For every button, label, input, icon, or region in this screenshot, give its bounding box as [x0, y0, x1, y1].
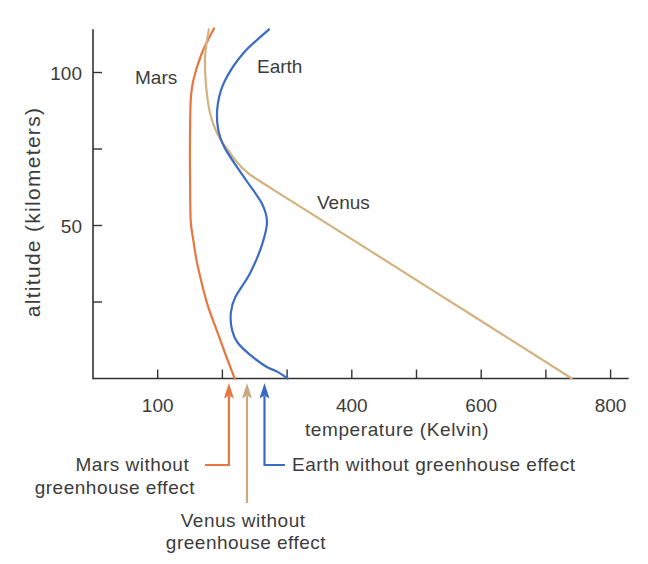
- series-line-venus: [205, 29, 572, 378]
- callout-mars: [205, 383, 234, 465]
- annotation-venus-no-greenhouse: Venus without greenhouse effect: [166, 510, 326, 553]
- altitude-vs-temperature-chart: 100400600800 50100 altitude (kilometers)…: [0, 0, 648, 564]
- series-label-earth: Earth: [257, 56, 302, 77]
- x-axis-label: temperature (Kelvin): [305, 419, 489, 440]
- callout-earth: [260, 383, 286, 465]
- annotation-line: Venus without: [181, 510, 306, 531]
- series-lines: [190, 28, 572, 378]
- annotation-line: Mars without: [76, 454, 190, 475]
- callouts: [205, 383, 285, 503]
- atmosphere-temperature-figure: 100400600800 50100 altitude (kilometers)…: [0, 0, 648, 564]
- y-ticks: 50100: [50, 63, 102, 303]
- series-line-mars: [190, 28, 235, 378]
- x-tick-label: 400: [336, 395, 368, 416]
- y-axis-label: altitude (kilometers): [21, 107, 44, 318]
- annotation-line: greenhouse effect: [166, 532, 326, 553]
- callout-venus: [242, 383, 252, 503]
- x-tick-label: 600: [465, 395, 497, 416]
- x-ticks: 100400600800: [142, 370, 627, 417]
- series-line-earth: [217, 29, 288, 378]
- annotation-line: greenhouse effect: [35, 477, 195, 498]
- annotation-earth-no-greenhouse: Earth without greenhouse effect: [292, 454, 576, 475]
- y-tick-label: 50: [61, 216, 82, 237]
- annotation-mars-no-greenhouse: Mars without greenhouse effect: [35, 454, 195, 498]
- series-label-venus: Venus: [317, 192, 370, 213]
- x-tick-label: 100: [142, 395, 174, 416]
- series-label-mars: Mars: [135, 67, 177, 88]
- annotation-line: Earth without greenhouse effect: [292, 454, 576, 475]
- callout-leader-line: [205, 396, 229, 465]
- x-tick-label: 800: [595, 395, 627, 416]
- y-tick-label: 100: [50, 63, 82, 84]
- callout-leader-line: [265, 396, 286, 465]
